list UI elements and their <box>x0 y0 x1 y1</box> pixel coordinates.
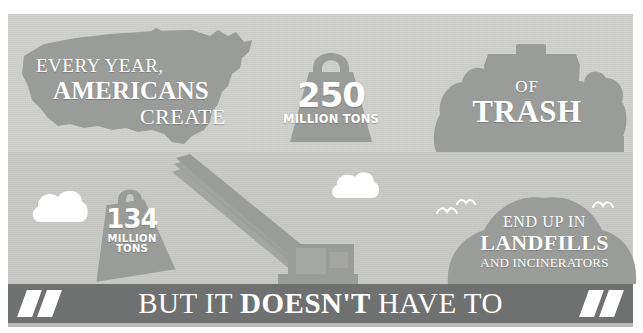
landfill-text-line3: AND INCINERATORS <box>462 256 627 269</box>
banner-word-to: TO <box>464 287 503 320</box>
us-text-line2: AMERICANS <box>36 78 226 103</box>
weight-134-number: 134 <box>92 206 172 232</box>
banner-word-but: BUT <box>138 287 198 320</box>
trash-text-line2: TRASH <box>452 96 602 127</box>
banner-word-doesnt: DOESN'T <box>240 287 371 320</box>
landfill-text-line1: END UP IN <box>462 214 627 230</box>
landfill-text-line2: LANDFILLS <box>462 232 627 254</box>
bottom-banner: BUT IT DOESN'T HAVE TO <box>8 284 633 323</box>
weight-250-unit: MILLION TONS <box>276 114 386 126</box>
us-text-line3: CREATE <box>36 106 226 128</box>
us-text-line1: EVERY YEAR, <box>36 56 226 75</box>
us-map-text: EVERY YEAR, AMERICANS CREATE <box>36 56 226 128</box>
banner-word-have: HAVE <box>378 287 457 320</box>
trash-text-line1: OF <box>452 78 602 95</box>
weight-134-text: 134 MILLION TONS <box>92 206 172 254</box>
slash-mark-icon-right <box>584 284 619 323</box>
weight-250-text: 250 MILLION TONS <box>276 78 386 126</box>
landfill-text: END UP IN LANDFILLS AND INCINERATORS <box>462 214 627 269</box>
weight-250-number: 250 <box>276 78 386 112</box>
banner-text: BUT IT DOESN'T HAVE TO <box>8 284 633 323</box>
banner-word-it: IT <box>205 287 233 320</box>
banner-shadow <box>8 323 633 327</box>
trash-text: OF TRASH <box>452 78 602 127</box>
infographic-canvas: EVERY YEAR, AMERICANS CREATE 250 MILLION… <box>0 0 643 333</box>
weight-134-unit-line2: TONS <box>92 244 172 254</box>
